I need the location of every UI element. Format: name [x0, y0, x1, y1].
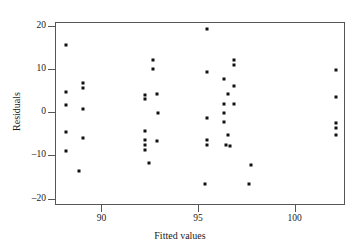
- data-points-layer: [56, 23, 344, 204]
- data-point: [223, 102, 226, 105]
- data-point: [229, 145, 232, 148]
- x-axis-tick-label: 95: [178, 214, 218, 224]
- data-point: [157, 112, 160, 115]
- data-point: [155, 92, 158, 95]
- data-point: [143, 149, 146, 152]
- data-point: [64, 43, 67, 46]
- x-axis-tick: [295, 205, 296, 212]
- x-axis-tick-label: 100: [275, 214, 315, 224]
- data-point: [205, 71, 208, 74]
- data-point: [335, 133, 338, 136]
- data-point: [250, 164, 253, 167]
- plot-frame: [55, 22, 345, 205]
- x-axis-label: Fitted values: [0, 230, 360, 241]
- data-point: [223, 77, 226, 80]
- data-point: [143, 98, 146, 101]
- y-axis-tick: [48, 199, 55, 200]
- y-axis-tick-label: 20: [6, 21, 46, 31]
- data-point: [78, 169, 81, 172]
- data-point: [205, 139, 208, 142]
- data-point: [225, 144, 228, 147]
- data-point: [223, 112, 226, 115]
- data-point: [232, 59, 235, 62]
- y-axis-tick-label: –20: [6, 194, 46, 204]
- data-point: [232, 102, 235, 105]
- data-point: [82, 86, 85, 89]
- y-axis-label: Residuals: [11, 62, 22, 162]
- data-point: [143, 94, 146, 97]
- data-point: [64, 149, 67, 152]
- residual-scatter-plot: 20100–10–20 9095100 Fitted values Residu…: [0, 0, 360, 252]
- data-point: [205, 144, 208, 147]
- data-point: [143, 143, 146, 146]
- data-point: [205, 116, 208, 119]
- data-point: [335, 69, 338, 72]
- data-point: [335, 122, 338, 125]
- data-point: [64, 90, 67, 93]
- data-point: [143, 138, 146, 141]
- x-axis-tick: [198, 205, 199, 212]
- data-point: [82, 136, 85, 139]
- y-axis-tick: [48, 26, 55, 27]
- x-axis-tick: [101, 205, 102, 212]
- data-point: [205, 28, 208, 31]
- y-axis-tick: [48, 112, 55, 113]
- data-point: [147, 162, 150, 165]
- data-point: [203, 183, 206, 186]
- data-point: [82, 82, 85, 85]
- data-point: [223, 120, 226, 123]
- data-point: [82, 108, 85, 111]
- data-point: [227, 93, 230, 96]
- data-point: [335, 126, 338, 129]
- data-point: [232, 84, 235, 87]
- data-point: [232, 63, 235, 66]
- data-point: [248, 183, 251, 186]
- data-point: [143, 130, 146, 133]
- data-point: [151, 59, 154, 62]
- data-point: [227, 133, 230, 136]
- data-point: [155, 139, 158, 142]
- y-axis-tick: [48, 155, 55, 156]
- data-point: [64, 103, 67, 106]
- y-axis-tick: [48, 69, 55, 70]
- data-point: [151, 67, 154, 70]
- data-point: [335, 96, 338, 99]
- x-axis-tick-label: 90: [81, 214, 121, 224]
- data-point: [64, 131, 67, 134]
